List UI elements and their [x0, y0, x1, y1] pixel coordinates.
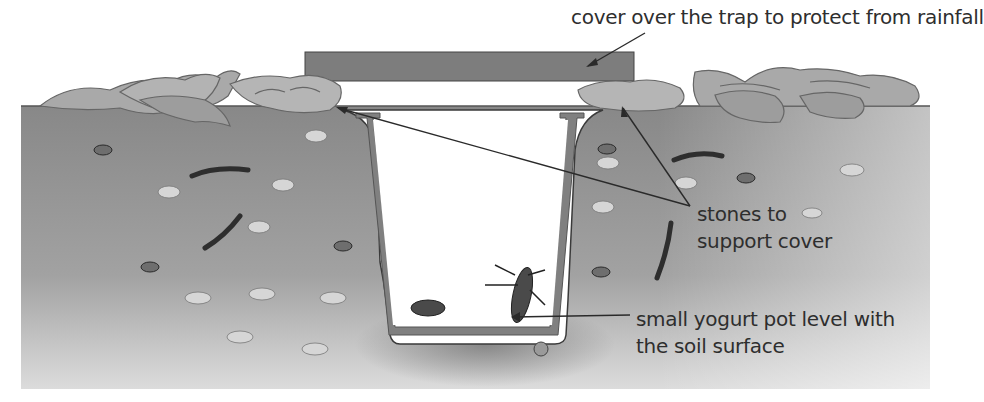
pot-label-line2: the soil surface [636, 333, 895, 360]
stones-label: stones to support cover [697, 201, 832, 255]
pot-label: small yogurt pot level with the soil sur… [636, 306, 895, 360]
snail [534, 342, 548, 356]
cover-board [305, 52, 634, 81]
cover-label: cover over the trap to protect from rain… [571, 4, 984, 31]
stones-label-line1: stones to [697, 201, 832, 228]
yogurt-pot [356, 113, 584, 335]
stones-label-line2: support cover [697, 228, 832, 255]
pot-label-line1: small yogurt pot level with [636, 306, 895, 333]
